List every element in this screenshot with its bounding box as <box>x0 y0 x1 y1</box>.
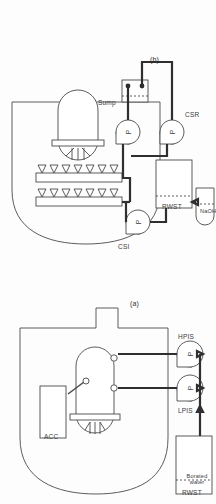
label-rwst-a: RWST <box>182 490 202 497</box>
svg-text:P: P <box>169 129 176 134</box>
sump-return-pump: P <box>116 120 140 144</box>
panel-b-canvas: P P P <box>0 0 216 252</box>
containment-sump <box>122 80 148 102</box>
accumulator-box <box>40 386 66 438</box>
svg-text:P: P <box>187 385 194 390</box>
label-rwst-b: RWST <box>162 204 182 211</box>
label-hpis: HPIS <box>178 334 194 341</box>
pipe-header2-branch <box>122 178 130 202</box>
label-naoh: NaOH <box>200 209 216 215</box>
label-csr: CSR <box>185 112 199 119</box>
csi-pump: P <box>126 210 150 234</box>
pipe-headers-to-csi <box>122 202 126 222</box>
pipe-csr-discharge <box>131 144 167 156</box>
svg-text:P: P <box>135 219 142 224</box>
figure-page: P P P <box>0 0 216 504</box>
lpis-nozzle <box>111 385 117 391</box>
hpis-nozzle <box>111 355 117 361</box>
label-csi: CSI <box>118 244 129 251</box>
containment-wall-step-a <box>20 308 168 328</box>
panel-b-containment-spray-system: P P P <box>0 0 216 252</box>
spray-header-row-2 <box>36 165 122 182</box>
caption-b: (b) <box>150 56 159 63</box>
svg-text:P: P <box>125 129 132 134</box>
panel-a-emergency-core-cooling-system: P P ACC LPIS HPIS RWST <box>0 252 216 504</box>
rwst-tank-a <box>176 436 212 494</box>
label-lpis: LPIS <box>178 408 193 415</box>
label-borated-water: Borated water <box>180 474 214 485</box>
spray-header-row-1 <box>36 189 122 206</box>
caption-a: (a) <box>130 300 139 307</box>
reactor-pressure-vessel-b <box>52 90 104 160</box>
csr-pump: P <box>160 120 184 144</box>
panel-a-canvas: P P <box>0 252 216 504</box>
rwst-tank-b <box>156 160 192 208</box>
svg-text:P: P <box>187 351 194 356</box>
label-sump: Sump <box>98 100 116 107</box>
label-acc: ACC <box>44 434 58 441</box>
